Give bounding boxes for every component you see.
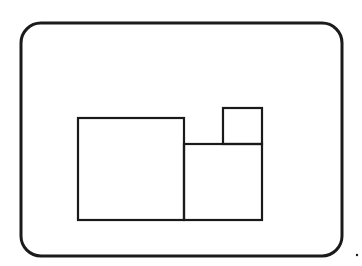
dot-mark — [356, 254, 358, 256]
large-rectangle — [78, 118, 184, 220]
medium-rectangle — [184, 144, 262, 220]
diagram-canvas — [0, 0, 362, 266]
small-square — [223, 108, 262, 144]
